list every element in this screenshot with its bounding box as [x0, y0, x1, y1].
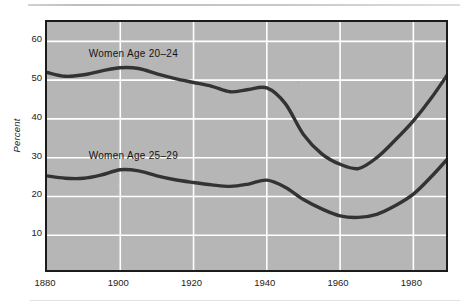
- y-axis-tick-labels: 102030405060: [14, 0, 42, 306]
- series-label-20-24: Women Age 20–24: [89, 48, 178, 59]
- y-tick-label-30: 30: [18, 151, 42, 161]
- x-tick-label-1880: 1880: [22, 277, 68, 288]
- x-tick-label-1940: 1940: [242, 277, 288, 288]
- y-tick-label-60: 60: [18, 34, 42, 44]
- y-tick-label-50: 50: [18, 73, 42, 83]
- x-tick-label-1980: 1980: [388, 277, 434, 288]
- x-axis-tick-labels: 188019001920194019601980: [0, 277, 467, 295]
- y-tick-label-40: 40: [18, 112, 42, 122]
- x-tick-label-1920: 1920: [169, 277, 215, 288]
- y-tick-label-20: 20: [18, 189, 42, 199]
- x-tick-label-1960: 1960: [315, 277, 361, 288]
- y-tick-label-10: 10: [18, 228, 42, 238]
- chart-canvas: [47, 22, 448, 272]
- series-label-25-29: Women Age 25–29: [89, 150, 178, 161]
- x-tick-label-1900: 1900: [95, 277, 141, 288]
- page-bottom-rule: [30, 300, 460, 301]
- plot-area: Women Age 20–24 Women Age 25–29: [45, 20, 448, 272]
- figure-page: Percent 102030405060 Women Age 20–24 Wom…: [0, 0, 467, 306]
- series-lines: [47, 68, 448, 218]
- series-line-2: [47, 156, 448, 217]
- page-top-rule: [28, 4, 460, 6]
